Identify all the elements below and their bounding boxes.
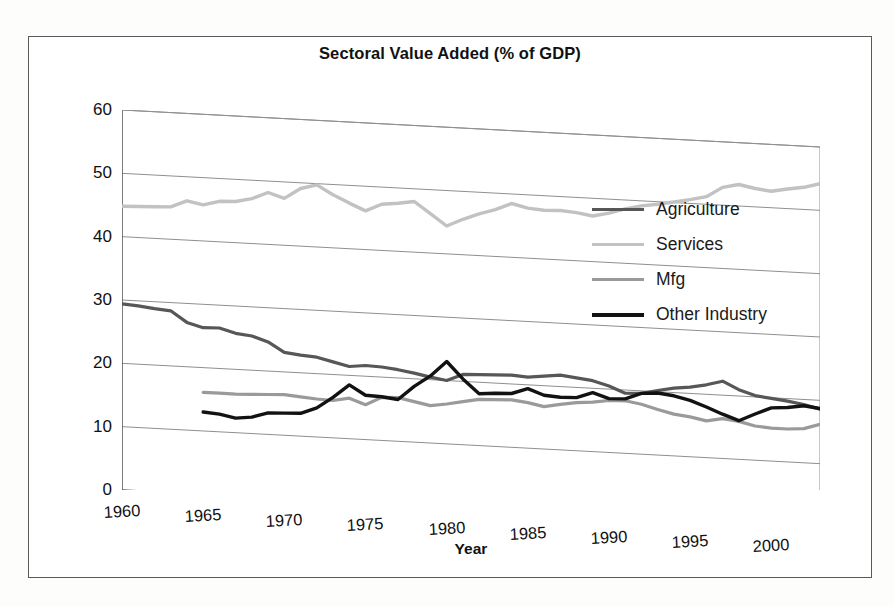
series-line-other-industry: [203, 362, 820, 421]
series-line-mfg: [203, 392, 820, 429]
y-tick-label-40: 40: [72, 227, 112, 247]
x-tick-label-1970: 1970: [265, 510, 303, 531]
legend-item-label: Agriculture: [656, 199, 740, 220]
legend-item-label: Mfg: [656, 269, 685, 290]
y-tick-label-30: 30: [72, 290, 112, 310]
y-tick-label-0: 0: [72, 480, 112, 500]
legend-item-agriculture[interactable]: Agriculture: [592, 192, 842, 227]
y-tick-label-10: 10: [72, 417, 112, 437]
x-tick-label-1960: 1960: [103, 501, 141, 522]
legend-item-services[interactable]: Services: [592, 227, 842, 262]
x-axis-title: Year: [122, 540, 820, 558]
y-axis-tick-labels: 0102030405060: [60, 110, 112, 490]
legend-item-other-industry[interactable]: Other Industry: [592, 297, 842, 332]
legend-item-label: Services: [656, 234, 723, 255]
legend-item-label: Other Industry: [656, 304, 767, 325]
x-tick-label-1965: 1965: [184, 505, 222, 526]
y-tick-label-50: 50: [72, 163, 112, 183]
legend-swatch-icon: [592, 313, 644, 317]
legend-item-mfg[interactable]: Mfg: [592, 262, 842, 297]
x-axis-tick-labels: 196019651970197519801985199019952000: [122, 496, 820, 530]
legend-swatch-icon: [592, 243, 644, 246]
chart-title: Sectoral Value Added (% of GDP): [28, 44, 872, 63]
plot-top-border: [122, 110, 820, 147]
legend-swatch-icon: [592, 278, 644, 281]
y-tick-label-60: 60: [72, 100, 112, 120]
x-tick-label-1980: 1980: [428, 518, 466, 539]
chart-legend: AgricultureServicesMfgOther Industry: [592, 192, 842, 332]
x-tick-label-1975: 1975: [347, 514, 385, 535]
y-tick-label-20: 20: [72, 353, 112, 373]
gridline-y-10: [122, 427, 820, 464]
legend-swatch-icon: [592, 208, 644, 211]
